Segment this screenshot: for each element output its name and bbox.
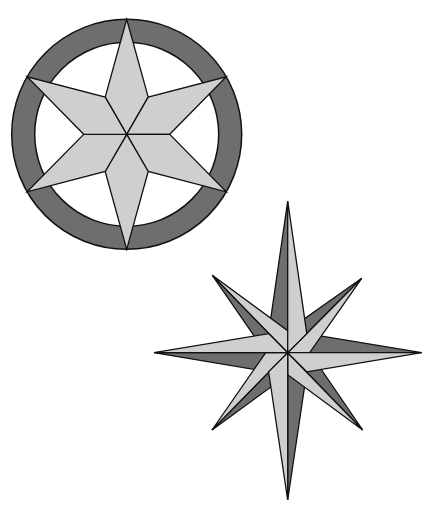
six-point-star-in-ring: [12, 19, 242, 249]
arm-light-half-main-E: [288, 353, 422, 372]
illustration-canvas: [0, 0, 433, 508]
arm-light-half-main-W: [154, 334, 288, 353]
center-point: [286, 351, 289, 354]
arm-light-half-main-N: [288, 201, 307, 353]
eight-point-compass-rose: [154, 201, 422, 500]
arm-light-half-main-S: [269, 353, 288, 500]
